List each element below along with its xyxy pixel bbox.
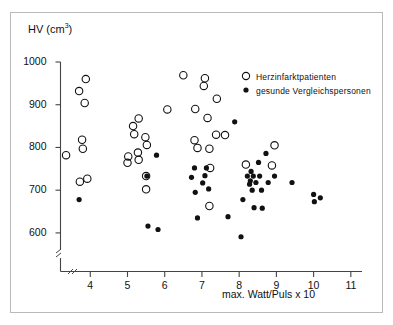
data-point-filled — [238, 234, 243, 239]
data-point-open — [135, 115, 142, 122]
data-point-open — [62, 151, 69, 158]
data-point-open — [134, 149, 141, 156]
y-tick-label-1000: 1000 — [13, 55, 47, 67]
data-point-open — [180, 72, 187, 79]
data-point-filled — [311, 192, 316, 197]
legend-open-circle-icon — [242, 72, 249, 79]
data-point-filled — [248, 169, 253, 174]
data-point-filled — [260, 206, 265, 211]
data-point-open — [213, 95, 220, 102]
data-point-filled — [232, 119, 237, 124]
data-point-filled — [253, 180, 258, 185]
scatter-plot — [0, 0, 393, 325]
data-point-filled — [251, 173, 256, 178]
x-tick-label-10: 10 — [306, 279, 322, 291]
x-tick-label-8: 8 — [231, 279, 247, 291]
axis-break-marks — [56, 249, 77, 274]
data-point-filled — [192, 165, 197, 170]
data-point-filled — [251, 205, 256, 210]
data-point-open — [142, 186, 149, 193]
y-axis-label-base: HV (cm — [28, 23, 65, 35]
legend-label-gesunde-vergleichspersonen: gesunde Vergleichspersonen — [256, 86, 371, 96]
legend-filled-circle-icon — [243, 87, 248, 92]
data-point-filled — [195, 215, 200, 220]
x-tick-label-9: 9 — [268, 279, 284, 291]
data-point-filled — [245, 173, 250, 178]
data-point-filled — [77, 197, 82, 202]
data-point-open — [206, 202, 213, 209]
data-point-filled — [289, 180, 294, 185]
y-tick-label-800: 800 — [13, 140, 47, 152]
data-point-open — [78, 136, 85, 143]
data-point-open — [200, 82, 207, 89]
data-point-filled — [247, 182, 252, 187]
data-point-open — [143, 141, 150, 148]
data-point-filled — [145, 223, 150, 228]
data-point-filled — [263, 151, 268, 156]
data-point-open — [131, 131, 138, 138]
series-gesunde-vergleichspersonen — [77, 119, 323, 239]
x-tick-label-5: 5 — [120, 279, 136, 291]
data-point-filled — [257, 173, 262, 178]
data-point-filled — [193, 190, 198, 195]
data-point-open — [268, 162, 275, 169]
y-axis-label-close: ) — [69, 23, 73, 35]
data-point-filled — [250, 188, 255, 193]
data-point-filled — [256, 160, 261, 165]
data-point-filled — [200, 180, 205, 185]
data-point-open — [76, 178, 83, 185]
y-axis-label: HV (cm3) — [28, 22, 72, 35]
y-tick-label-700: 700 — [13, 183, 47, 195]
legend-label-herzinfarktpatienten: Herzinfarktpatienten — [256, 72, 336, 82]
data-point-filled — [318, 195, 323, 200]
y-tick-label-900: 900 — [13, 98, 47, 110]
data-point-filled — [259, 188, 264, 193]
data-point-open — [75, 87, 82, 94]
data-point-filled — [266, 180, 271, 185]
x-tick-label-6: 6 — [157, 279, 173, 291]
data-point-filled — [272, 173, 277, 178]
y-tick-label-600: 600 — [13, 226, 47, 238]
data-point-open — [129, 122, 136, 129]
data-point-filled — [155, 227, 160, 232]
x-tick-label-4: 4 — [82, 279, 98, 291]
x-tick-label-11: 11 — [343, 279, 359, 291]
data-point-filled — [206, 186, 211, 191]
data-point-open — [191, 136, 198, 143]
data-point-open — [84, 175, 91, 182]
data-point-open — [81, 99, 88, 106]
data-point-open — [212, 131, 219, 138]
data-point-open — [194, 144, 201, 151]
data-point-open — [79, 145, 86, 152]
data-point-open — [221, 131, 228, 138]
data-point-open — [142, 134, 149, 141]
x-tick-label-7: 7 — [194, 279, 210, 291]
data-point-open — [242, 161, 249, 168]
data-point-filled — [154, 153, 159, 158]
data-point-filled — [312, 199, 317, 204]
data-point-filled — [144, 173, 149, 178]
data-point-open — [192, 105, 199, 112]
data-point-filled — [240, 197, 245, 202]
data-point-open — [82, 75, 89, 82]
data-point-open — [201, 75, 208, 82]
data-point-open — [135, 156, 142, 163]
data-point-filled — [189, 175, 194, 180]
data-point-filled — [225, 214, 230, 219]
legend-markers — [242, 72, 249, 92]
data-point-open — [204, 114, 211, 121]
data-point-filled — [204, 165, 209, 170]
data-point-open — [271, 142, 278, 149]
data-point-filled — [202, 173, 207, 178]
data-point-open — [164, 106, 171, 113]
data-point-open — [206, 145, 213, 152]
